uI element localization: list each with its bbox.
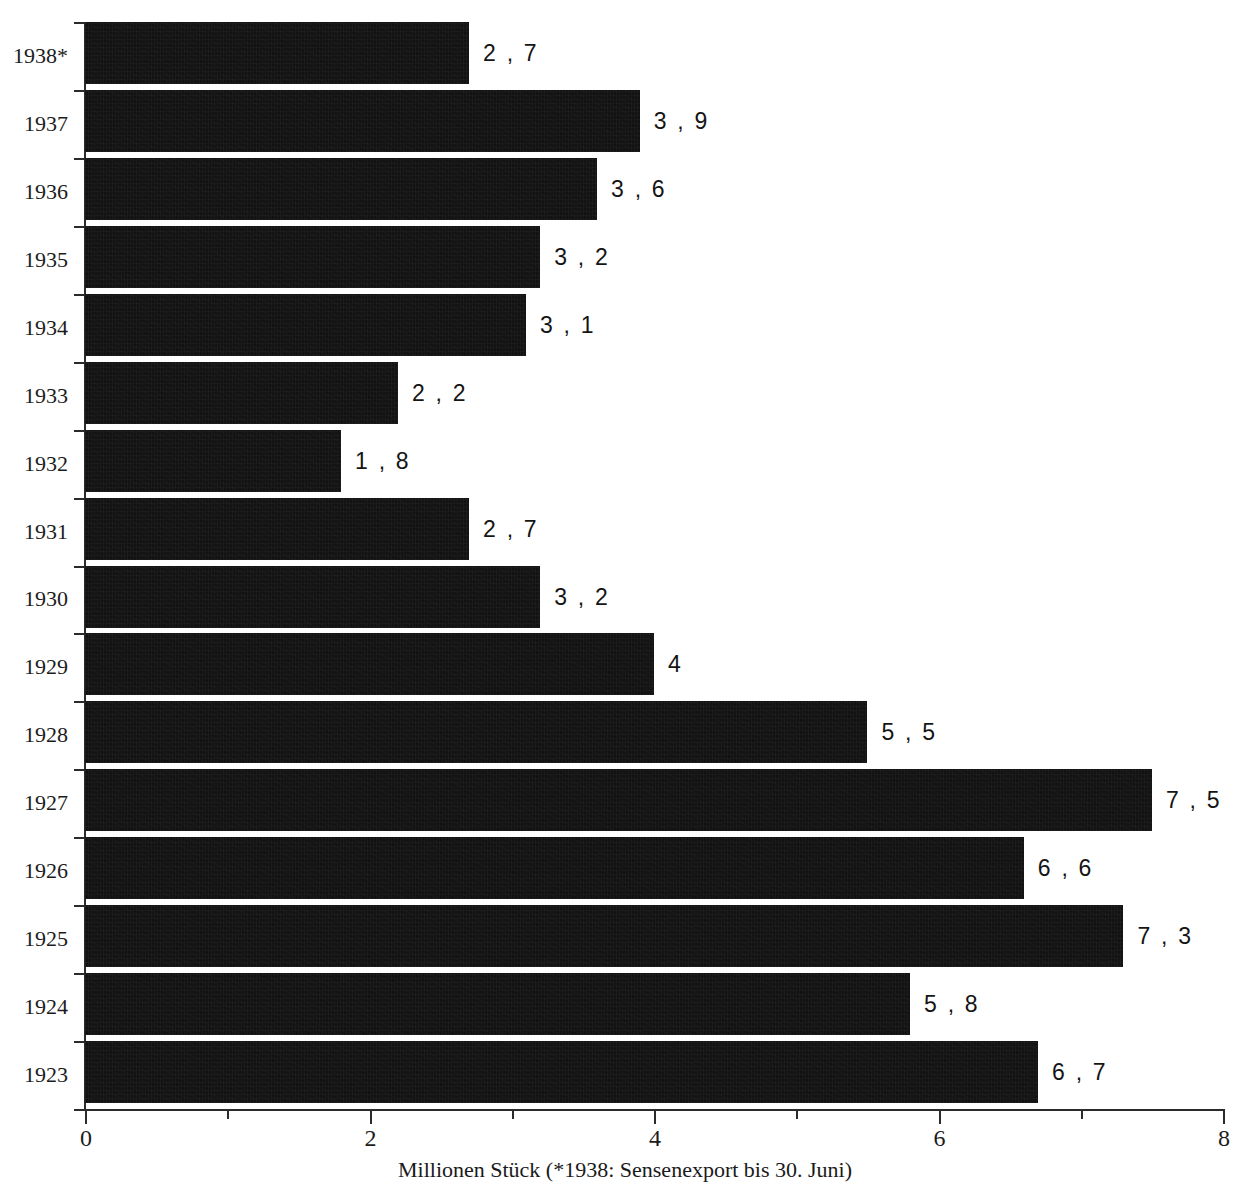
category-label-1929: 1929 — [0, 656, 68, 678]
bar-value-label: 6 , 7 — [1052, 1061, 1108, 1084]
bar-row: 1 , 8 — [85, 430, 1223, 498]
y-axis-tick — [74, 498, 85, 500]
bar-row: 3 , 1 — [85, 294, 1223, 362]
x-axis-major-tick — [1223, 1111, 1225, 1124]
bar — [85, 633, 654, 695]
category-label-1937: 1937 — [0, 113, 68, 135]
y-axis-tick — [74, 1109, 85, 1111]
category-label-1934: 1934 — [0, 317, 68, 339]
bar-row: 4 — [85, 633, 1223, 701]
bar — [85, 498, 469, 560]
y-axis-tick — [74, 769, 85, 771]
x-axis-major-tick — [85, 1111, 87, 1124]
bar — [85, 22, 469, 84]
bar — [85, 362, 398, 424]
bar-value-label: 7 , 5 — [1166, 789, 1222, 812]
x-axis-tick-label: 8 — [1194, 1126, 1250, 1150]
bar-value-label: 5 , 8 — [924, 993, 980, 1016]
x-axis-major-tick — [939, 1111, 941, 1124]
y-axis-tick — [74, 158, 85, 160]
bar — [85, 973, 910, 1035]
bar-value-label: 6 , 6 — [1038, 857, 1094, 880]
x-axis-title: Millionen Stück (*1938: Sensenexport bis… — [0, 1158, 1250, 1182]
bar-chart: 1938*19371936193519341933193219311930192… — [0, 0, 1250, 1194]
category-label-1933: 1933 — [0, 385, 68, 407]
category-label-1925: 1925 — [0, 928, 68, 950]
bar — [85, 90, 640, 152]
bar-row: 7 , 3 — [85, 905, 1223, 973]
cropped-title-remnant — [0, 0, 1250, 2]
bar-row: 3 , 9 — [85, 90, 1223, 158]
bar — [85, 1041, 1038, 1103]
bar-value-label: 4 — [668, 653, 683, 676]
y-axis-tick — [74, 226, 85, 228]
bar-value-label: 2 , 7 — [483, 518, 539, 541]
bar-row: 7 , 5 — [85, 769, 1223, 837]
bar-row: 3 , 2 — [85, 566, 1223, 634]
bar-value-label: 3 , 6 — [611, 178, 667, 201]
category-axis-labels: 1938*19371936193519341933193219311930192… — [0, 22, 78, 1109]
bar-value-label: 3 , 9 — [654, 110, 710, 133]
bar-value-label: 3 , 1 — [540, 314, 596, 337]
category-label-1927: 1927 — [0, 792, 68, 814]
y-axis-tick — [74, 973, 85, 975]
bar-value-label: 3 , 2 — [554, 586, 610, 609]
y-axis-tick — [74, 430, 85, 432]
category-label-1923: 1923 — [0, 1064, 68, 1086]
category-label-1935: 1935 — [0, 249, 68, 271]
bar — [85, 158, 597, 220]
y-axis-tick — [74, 90, 85, 92]
y-axis-tick — [74, 1041, 85, 1043]
bar-row: 2 , 2 — [85, 362, 1223, 430]
bar — [85, 430, 341, 492]
bar-value-label: 1 , 8 — [355, 450, 411, 473]
bar-value-label: 7 , 3 — [1137, 925, 1193, 948]
bar — [85, 294, 526, 356]
x-axis-tick-label: 6 — [910, 1126, 970, 1150]
bar-row: 3 , 6 — [85, 158, 1223, 226]
category-label-1924: 1924 — [0, 996, 68, 1018]
plot-area: 2 , 73 , 93 , 63 , 23 , 12 , 21 , 82 , 7… — [85, 22, 1223, 1109]
x-axis-minor-tick — [227, 1111, 229, 1119]
bar-row: 3 , 2 — [85, 226, 1223, 294]
bar — [85, 769, 1152, 831]
y-axis-tick — [74, 837, 85, 839]
category-label-1930: 1930 — [0, 588, 68, 610]
y-axis-tick — [74, 22, 85, 24]
x-axis-minor-tick — [512, 1111, 514, 1119]
x-axis-tick-label: 0 — [56, 1126, 116, 1150]
bar-row: 6 , 6 — [85, 837, 1223, 905]
y-axis-tick — [74, 905, 85, 907]
bar-row: 2 , 7 — [85, 498, 1223, 566]
bar-row: 2 , 7 — [85, 22, 1223, 90]
bar — [85, 905, 1123, 967]
bar — [85, 837, 1024, 899]
category-label-1928: 1928 — [0, 724, 68, 746]
x-axis-major-tick — [370, 1111, 372, 1124]
bar — [85, 701, 867, 763]
x-axis-tick-label: 2 — [341, 1126, 401, 1150]
category-label-1932: 1932 — [0, 453, 68, 475]
y-axis-tick — [74, 633, 85, 635]
x-axis-major-tick — [654, 1111, 656, 1124]
bar-value-label: 2 , 2 — [412, 382, 468, 405]
category-label-1931: 1931 — [0, 521, 68, 543]
bar — [85, 226, 540, 288]
x-axis-minor-tick — [1081, 1111, 1083, 1119]
bar — [85, 566, 540, 628]
x-axis-minor-tick — [796, 1111, 798, 1119]
bar-value-label: 5 , 5 — [881, 721, 937, 744]
bar-row: 5 , 5 — [85, 701, 1223, 769]
x-axis-tick-label: 4 — [625, 1126, 685, 1150]
category-label-1926: 1926 — [0, 860, 68, 882]
bar-value-label: 2 , 7 — [483, 42, 539, 65]
bar-value-label: 3 , 2 — [554, 246, 610, 269]
category-label-1936: 1936 — [0, 181, 68, 203]
y-axis-tick — [74, 294, 85, 296]
y-axis-tick — [74, 701, 85, 703]
bar-row: 5 , 8 — [85, 973, 1223, 1041]
y-axis-tick — [74, 362, 85, 364]
bar-row: 6 , 7 — [85, 1041, 1223, 1109]
y-axis-tick — [74, 566, 85, 568]
category-label-1938star: 1938* — [0, 45, 68, 67]
